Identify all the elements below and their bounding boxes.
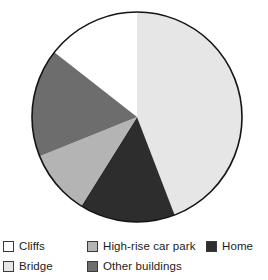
legend-row-bottom: Bridge Other buildings	[0, 256, 268, 276]
legend-label-home: Home	[222, 240, 253, 253]
legend-label-other-buildings: Other buildings	[103, 260, 182, 273]
legend-label-bridge: Bridge	[19, 260, 53, 273]
legend-swatch-home	[206, 241, 217, 252]
legend-item-high-rise-car-park[interactable]: High-rise car park	[87, 236, 196, 256]
chart-legend: Cliffs High-rise car park Home Bridge Ot…	[0, 234, 268, 280]
legend-swatch-bridge	[3, 261, 14, 272]
legend-item-other-buildings[interactable]: Other buildings	[87, 256, 182, 276]
legend-item-bridge[interactable]: Bridge	[3, 256, 53, 276]
chart-plot-area	[0, 0, 268, 232]
legend-item-home[interactable]: Home	[206, 236, 253, 256]
pie-chart-figure: Cliffs High-rise car park Home Bridge Ot…	[0, 0, 268, 280]
legend-swatch-cliffs	[3, 241, 14, 252]
legend-item-cliffs[interactable]: Cliffs	[3, 236, 45, 256]
legend-row-top: Cliffs High-rise car park Home	[0, 236, 268, 256]
legend-swatch-other-buildings	[87, 261, 98, 272]
pie-chart-svg	[0, 0, 268, 232]
legend-label-high-rise-car-park: High-rise car park	[103, 240, 196, 253]
legend-swatch-high-rise-car-park	[87, 241, 98, 252]
pie-slice-group	[32, 12, 242, 222]
legend-label-cliffs: Cliffs	[19, 240, 45, 253]
